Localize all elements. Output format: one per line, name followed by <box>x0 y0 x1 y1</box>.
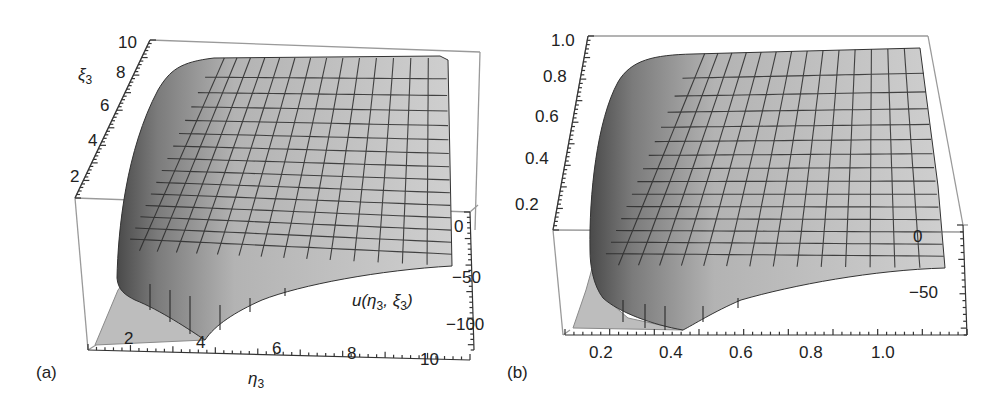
x-tick-label: 1.0 <box>871 344 895 361</box>
y-tick-label: 6 <box>100 97 109 114</box>
y-tick-label: 0.6 <box>535 108 559 125</box>
panel-a-surface-plot: 1086422468100−50−100ξ3η3u(η3, ξ3) (a) <box>0 0 493 403</box>
x-tick-label: 6 <box>272 340 281 357</box>
x-tick-label: 0.2 <box>589 344 613 361</box>
z-tick-label: 0 <box>913 228 922 245</box>
x-tick-label: 0.4 <box>659 344 683 361</box>
y-tick-label: 10 <box>118 34 137 51</box>
panel-tag-a: (a) <box>36 364 57 381</box>
surface-plot-a <box>0 0 493 403</box>
y-tick-label: 0.2 <box>515 196 539 213</box>
z-tick-label: −50 <box>452 269 481 286</box>
y-tick-label: 1.0 <box>551 32 575 49</box>
x-axis-label: η3 <box>248 370 264 390</box>
z-tick-label: −100 <box>446 316 484 333</box>
panel-tag-b: (b) <box>507 364 528 381</box>
y-axis-label: ξ3 <box>78 66 92 86</box>
x-tick-label: 0.6 <box>729 344 753 361</box>
y-tick-label: 4 <box>88 132 97 149</box>
y-tick-label: 2 <box>70 168 79 185</box>
x-tick-label: 0.8 <box>799 344 823 361</box>
y-tick-label: 0.4 <box>525 150 549 167</box>
y-tick-label: 0.8 <box>543 68 567 85</box>
x-tick-label: 2 <box>124 330 133 347</box>
y-tick-label: 8 <box>116 64 125 81</box>
x-tick-label: 8 <box>347 345 356 362</box>
panel-b-surface-plot: 1.00.80.60.40.20.20.40.60.81.00−50 (b) <box>493 0 986 403</box>
z-axis-label: u(η3, ξ3) <box>352 292 413 312</box>
z-tick-label: −50 <box>909 284 938 301</box>
x-tick-label: 10 <box>420 351 439 368</box>
z-tick-label: 0 <box>454 218 463 235</box>
x-tick-label: 4 <box>196 334 205 351</box>
